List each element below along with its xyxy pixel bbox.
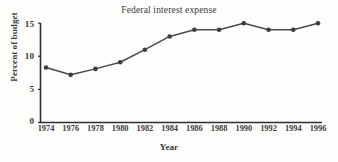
data-point-marker xyxy=(167,34,172,39)
x-tick-label: 1988 xyxy=(206,124,232,133)
data-point-marker xyxy=(291,28,296,33)
x-tick-label: 1978 xyxy=(82,124,108,133)
data-point-marker xyxy=(93,67,98,72)
x-tick-label: 1994 xyxy=(280,124,306,133)
x-tick-label: 1996 xyxy=(305,124,331,133)
x-tick-label: 1974 xyxy=(33,124,59,133)
data-point-marker xyxy=(266,28,271,33)
data-point-marker xyxy=(316,21,321,26)
x-tick-label: 1992 xyxy=(256,124,282,133)
x-tick-label: 1976 xyxy=(58,124,84,133)
data-point-marker xyxy=(242,21,247,26)
x-axis-label: Year xyxy=(0,142,338,152)
data-point-marker xyxy=(68,73,73,78)
x-tick-label: 1982 xyxy=(132,124,158,133)
data-point-marker xyxy=(192,28,197,33)
x-axis-tick-labels: 1974197619781980198219841986198819901992… xyxy=(0,124,338,138)
chart-figure: Federal interest expense Percent of budg… xyxy=(0,0,338,162)
data-point-marker xyxy=(143,47,148,52)
x-tick-label: 1986 xyxy=(181,124,207,133)
data-series-line xyxy=(46,23,318,75)
x-tick-label: 1984 xyxy=(157,124,183,133)
x-tick-label: 1990 xyxy=(231,124,257,133)
data-point-marker xyxy=(217,28,222,33)
x-tick-label: 1980 xyxy=(107,124,133,133)
data-point-marker xyxy=(118,60,123,65)
data-point-marker xyxy=(44,65,49,70)
